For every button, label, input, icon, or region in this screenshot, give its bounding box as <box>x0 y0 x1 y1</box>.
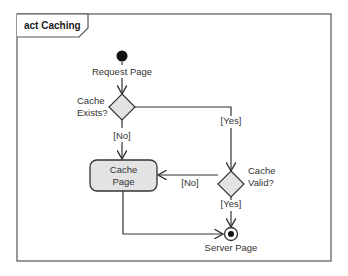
frame-title: act Caching <box>24 20 81 31</box>
guard-valid-no: [No] <box>181 177 198 188</box>
initial-node[interactable] <box>117 51 128 62</box>
diagram-frame <box>17 14 331 261</box>
guard-valid-yes: [Yes] <box>221 198 242 209</box>
action-cache-page-label-2: Page <box>112 176 134 187</box>
decision-cache-valid-label-2: Valid? <box>248 177 274 188</box>
guard-exists-no: [No] <box>113 130 130 141</box>
decision-cache-valid-label-1: Cache <box>248 165 275 176</box>
activity-diagram: act Caching Request Page Cache Exists? [… <box>0 0 348 276</box>
final-node-label: Server Page <box>205 242 258 253</box>
decision-cache-exists-label-1: Cache <box>77 95 104 106</box>
decision-cache-exists-label-2: Exists? <box>77 107 108 118</box>
initial-node-label: Request Page <box>92 66 152 77</box>
guard-exists-yes: [Yes] <box>221 115 242 126</box>
final-node-inner <box>228 231 234 237</box>
action-cache-page-label-1: Cache <box>110 164 137 175</box>
